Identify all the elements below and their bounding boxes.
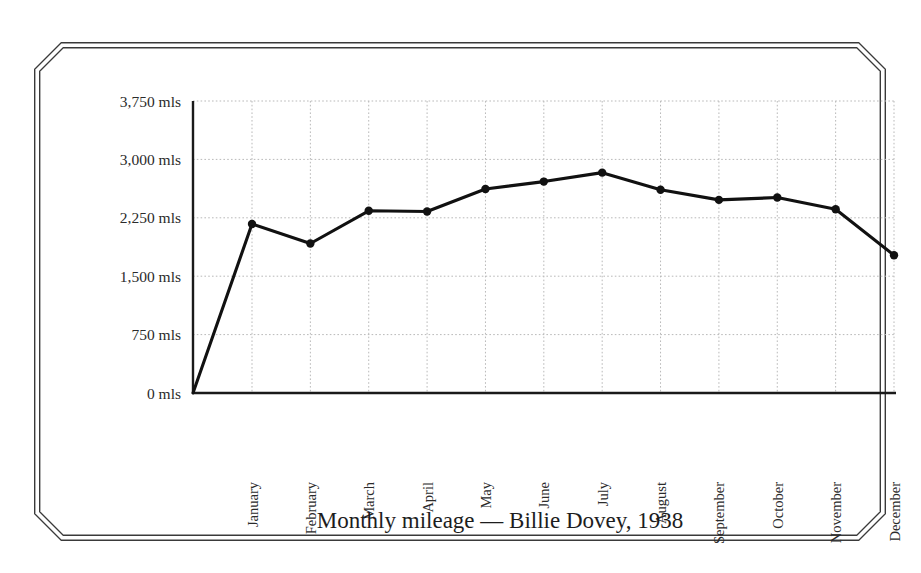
chart-title: Monthly mileage — Billie Dovey, 1938 [317, 508, 683, 533]
x-axis-tick-label: June [536, 482, 552, 509]
data-point-markers [248, 168, 898, 259]
y-axis-tick-labels: 0 mls750 mls1,500 mls2,250 mls3,000 mls3… [120, 93, 181, 402]
filled-circle-icon [890, 251, 898, 259]
filled-circle-icon [365, 207, 373, 215]
filled-circle-icon [598, 168, 606, 176]
filled-circle-icon [423, 207, 431, 215]
filled-circle-icon [831, 205, 839, 213]
chart-axes [193, 101, 896, 393]
x-axis-tick-label: October [770, 482, 786, 529]
filled-circle-icon [248, 220, 256, 228]
filled-circle-icon [306, 239, 314, 247]
x-axis-tick-label: July [595, 481, 611, 506]
y-axis-tick-label: 0 mls [147, 385, 181, 402]
filled-circle-icon [773, 193, 781, 201]
y-axis-tick-label: 2,250 mls [120, 209, 181, 226]
line-chart: 0 mls750 mls1,500 mls2,250 mls3,000 mls3… [40, 16, 921, 573]
x-axis-tick-label: May [478, 481, 494, 508]
filled-circle-icon [540, 177, 548, 185]
x-axis-tick-label: November [828, 482, 844, 543]
y-axis-tick-label: 3,750 mls [120, 93, 181, 110]
y-axis-tick-label: 750 mls [131, 326, 181, 343]
filled-circle-icon [656, 186, 664, 194]
filled-circle-icon [715, 196, 723, 204]
vertical-gridlines [252, 101, 894, 393]
y-axis-tick-label: 1,500 mls [120, 268, 181, 285]
y-axis-tick-label: 3,000 mls [120, 151, 181, 168]
chart-canvas: 0 mls750 mls1,500 mls2,250 mls3,000 mls3… [40, 16, 921, 573]
filled-circle-icon [481, 185, 489, 193]
x-axis-tick-label: September [711, 482, 727, 544]
x-axis-tick-label: January [245, 481, 261, 527]
x-axis-tick-label: December [887, 482, 903, 542]
